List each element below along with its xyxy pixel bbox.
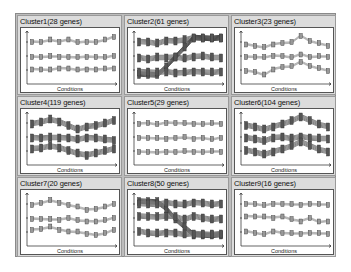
panel-title: Cluster2(61 genes) [127, 17, 189, 26]
cluster-grid: Cluster1(28 genes)ConditionsCluster2(61 … [15, 13, 336, 257]
cluster-panel-3: Cluster3(23 genes)Conditions [231, 15, 336, 95]
cluster-panel-8: Cluster8(50 genes)Conditions [124, 177, 229, 257]
cluster-panel-9: Cluster9(16 genes)Conditions [231, 177, 336, 257]
panel-title: Cluster7(20 genes) [20, 179, 82, 188]
panel-title: Cluster9(16 genes) [234, 179, 296, 188]
x-axis-label: Conditions [128, 248, 226, 254]
cluster-panel-4: Cluster4(119 genes)Conditions [17, 96, 122, 176]
panel-title: Cluster3(23 genes) [234, 17, 296, 26]
cluster-panel-5: Cluster5(29 genes)Conditions [124, 96, 229, 176]
x-axis-label: Conditions [235, 86, 333, 92]
panel-title: Cluster5(29 genes) [127, 98, 189, 107]
line-plot: Conditions [127, 108, 227, 174]
x-axis-label: Conditions [235, 167, 333, 173]
line-plot: Conditions [127, 27, 227, 93]
x-axis-label: Conditions [128, 167, 226, 173]
panel-title: Cluster1(28 genes) [20, 17, 82, 26]
x-axis-label: Conditions [128, 86, 226, 92]
cluster-panel-1: Cluster1(28 genes)Conditions [17, 15, 122, 95]
panel-title: Cluster4(119 genes) [20, 98, 86, 107]
line-plot: Conditions [234, 189, 334, 255]
cluster-panel-2: Cluster2(61 genes)Conditions [124, 15, 229, 95]
line-plot: Conditions [234, 108, 334, 174]
panel-title: Cluster8(50 genes) [127, 179, 189, 188]
x-axis-label: Conditions [21, 167, 119, 173]
panel-title: Cluster6(104 genes) [234, 98, 300, 107]
x-axis-label: Conditions [21, 248, 119, 254]
line-plot: Conditions [20, 108, 120, 174]
line-plot: Conditions [20, 189, 120, 255]
x-axis-label: Conditions [21, 86, 119, 92]
line-plot: Conditions [127, 189, 227, 255]
x-axis-label: Conditions [235, 248, 333, 254]
line-plot: Conditions [234, 27, 334, 93]
cluster-panel-7: Cluster7(20 genes)Conditions [17, 177, 122, 257]
cluster-panel-6: Cluster6(104 genes)Conditions [231, 96, 336, 176]
line-plot: Conditions [20, 27, 120, 93]
